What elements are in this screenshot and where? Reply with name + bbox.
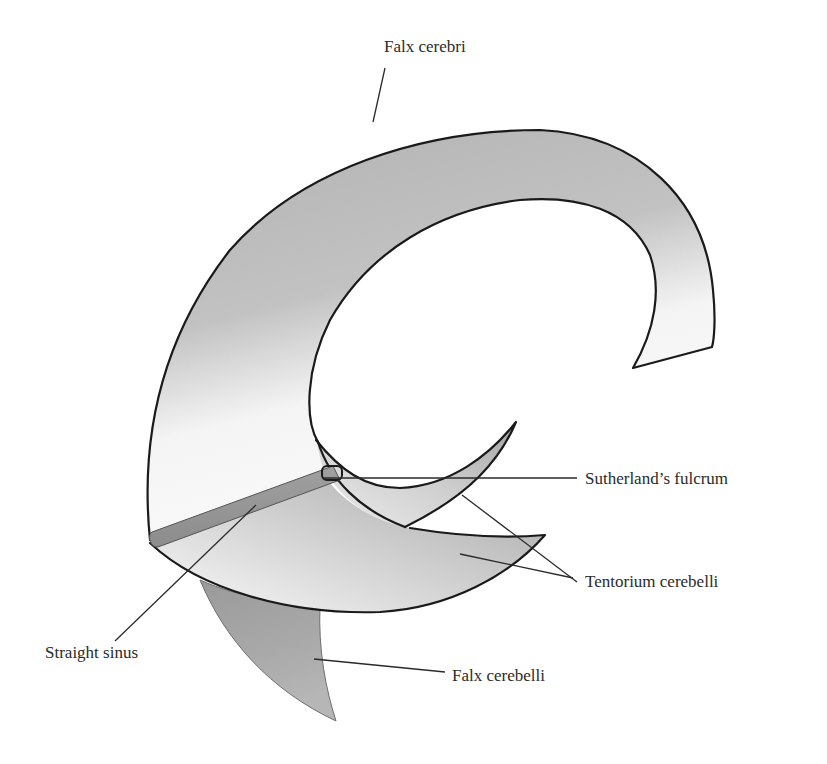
leader-falx-cerebri	[373, 68, 385, 122]
label-falx-cerebelli: Falx cerebelli	[452, 667, 545, 684]
label-sutherlands-fulcrum: Sutherland’s fulcrum	[585, 470, 728, 487]
label-tentorium-cerebelli: Tentorium cerebelli	[585, 573, 718, 590]
label-straight-sinus: Straight sinus	[45, 644, 138, 661]
leader-falx-cerebelli	[314, 659, 445, 672]
label-falx-cerebri: Falx cerebri	[384, 38, 466, 55]
